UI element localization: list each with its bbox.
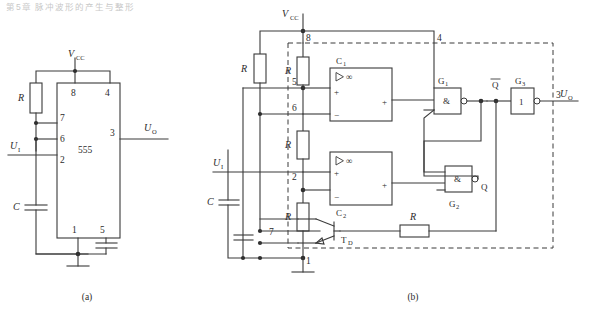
feedback-resistor-body <box>400 225 429 237</box>
wire-vcc-to-r-a <box>36 71 75 83</box>
gate-g2-output-bubble <box>472 176 478 182</box>
node-pin6-b <box>258 112 262 116</box>
divider-resistor-1-body <box>297 57 309 85</box>
gate-g2-label: G <box>449 199 456 209</box>
comparator-c1-out-plus: + <box>382 97 387 107</box>
label-uo-a: U <box>144 122 152 133</box>
pin-label-b-8: 8 <box>306 33 311 43</box>
label-ui-sub-a: I <box>18 146 20 153</box>
label-uo-sub-a: O <box>152 128 157 135</box>
comparator-c1-body <box>330 68 392 121</box>
pin-label-a-6: 6 <box>60 134 65 144</box>
comparator-c2-in-minus: − <box>334 192 339 202</box>
chip-boundary-dashed-b <box>288 43 553 248</box>
label-uo-b: U <box>560 88 568 99</box>
label-uo-sub-b: O <box>568 94 573 101</box>
gate-g3-sub: 3 <box>522 80 525 87</box>
pin-label-b-7: 7 <box>269 227 274 237</box>
gate-g3-label: G <box>515 76 522 86</box>
latch-q-label: Q <box>481 182 488 192</box>
gate-g2-sub: 2 <box>456 203 459 210</box>
divider-resistor-1-label: R <box>284 65 291 76</box>
transistor-td-sub: D <box>348 239 353 246</box>
gate-g1-label: G <box>438 76 445 86</box>
transistor-emitter-lead <box>316 236 334 243</box>
comparator-c1-label: C <box>336 56 342 66</box>
ext-resistor-b-body <box>254 54 266 83</box>
node-pin7-a <box>34 121 38 125</box>
caption-b: (b) <box>407 292 418 303</box>
pin-label-b-5: 5 <box>292 77 297 87</box>
comparator-c2-infinity-icon: ∞ <box>346 156 352 166</box>
pin-label-a-4: 4 <box>105 88 110 98</box>
transistor-td-label: T <box>341 235 347 245</box>
pin-label-a-2: 2 <box>60 155 65 165</box>
transistor-collector-lead <box>316 219 334 226</box>
comparator-c1-infinity-icon: ∞ <box>346 72 352 82</box>
comparator-c1-in-minus: − <box>334 110 339 120</box>
comparator-c2-label: C <box>336 208 342 218</box>
pin-label-a-7: 7 <box>60 113 65 123</box>
capacitor-c-a-label: C <box>13 201 20 212</box>
label-vcc-sub-b: CC <box>290 14 299 21</box>
gate-g3-output-bubble <box>534 98 540 104</box>
pin-label-b-2: 2 <box>292 172 297 182</box>
label-vcc-a: V <box>68 48 76 59</box>
divider-resistor-2-label: R <box>284 139 291 150</box>
comparator-c2-out-plus: + <box>382 180 387 190</box>
comparator-c1-in-plus: + <box>334 87 339 97</box>
pin-label-b-6: 6 <box>292 103 297 113</box>
label-ui-sub-b: I <box>221 163 223 170</box>
pin-label-a-5: 5 <box>100 225 105 235</box>
label-vcc-b: V <box>282 8 290 19</box>
comparator-c2-sub: 2 <box>343 212 346 219</box>
pin-label-b-4: 4 <box>437 33 442 43</box>
pin-label-a-1: 1 <box>72 225 77 235</box>
label-vcc-sub-a: CC <box>76 54 85 61</box>
divider-resistor-2-body <box>297 131 309 159</box>
feedback-resistor-label: R <box>409 211 416 222</box>
chip-555-label: 555 <box>78 145 93 155</box>
gate-g1-glyph: & <box>443 96 450 106</box>
gate-g1-output-bubble <box>461 98 467 104</box>
node-pin7-gnd-b <box>258 256 262 260</box>
pin-label-a-8: 8 <box>71 88 76 98</box>
comparator-c1-sub: 1 <box>343 60 346 67</box>
node-bypass-gnd-b <box>241 256 245 260</box>
pin-label-a-3: 3 <box>110 128 115 138</box>
pin-label-b-1: 1 <box>306 256 311 266</box>
gate-g3-glyph: 1 <box>519 97 524 107</box>
caption-a: (a) <box>82 292 93 303</box>
label-ui-b: U <box>213 157 221 168</box>
latch-qbar-label: Q <box>492 80 499 90</box>
ext-resistor-b-label: R <box>240 63 247 74</box>
circuit-b: V CC 8 4 R 5 6 2 U I <box>207 8 578 303</box>
chip-555-body <box>57 83 120 238</box>
label-ui-a: U <box>10 140 18 151</box>
figure-root: 第5章 脉冲波形的产生与整形 555 V CC 8 4 R 7 <box>0 0 590 315</box>
divider-resistor-3-body <box>297 203 309 231</box>
wire-vcc-top-a <box>75 71 110 83</box>
comparator-c2-body <box>330 152 392 205</box>
circuit-a: 555 V CC 8 4 R 7 6 2 U <box>8 48 168 303</box>
node-vcc-a <box>73 69 77 73</box>
ext-capacitor-b-label: C <box>207 196 214 207</box>
gate-g1-sub: 1 <box>445 80 448 87</box>
resistor-r-a-body <box>30 83 42 113</box>
comparator-c2-in-plus: + <box>334 168 339 178</box>
resistor-r-a-label: R <box>17 92 24 103</box>
schematic-svg: 555 V CC 8 4 R 7 6 2 U <box>0 0 590 315</box>
divider-resistor-3-label: R <box>284 211 291 222</box>
